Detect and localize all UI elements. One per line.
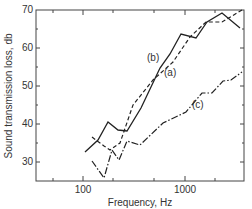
series-a-line — [92, 10, 242, 150]
line-chart: 30 40 50 60 70 100 1000 Frequency, Hz So… — [0, 0, 252, 209]
y-tick-label-60: 60 — [22, 42, 34, 53]
x-tick-label-100: 100 — [75, 184, 92, 195]
y-axis-title: Sound transmission loss, db — [3, 33, 14, 159]
curve-label-c: (c) — [192, 99, 204, 110]
series-b-line — [85, 13, 240, 152]
y-tick-label-70: 70 — [22, 4, 34, 15]
y-tick-label-50: 50 — [22, 80, 34, 91]
chart-container: 30 40 50 60 70 100 1000 Frequency, Hz So… — [0, 0, 252, 209]
x-axis-title: Frequency, Hz — [108, 197, 172, 208]
series-c-line — [92, 72, 242, 178]
curve-label-b: (b) — [147, 52, 159, 63]
x-tick-label-1000: 1000 — [174, 184, 197, 195]
y-tick-label-40: 40 — [22, 118, 34, 129]
curve-label-a: (a) — [164, 67, 176, 78]
y-tick-label-30: 30 — [22, 156, 34, 167]
